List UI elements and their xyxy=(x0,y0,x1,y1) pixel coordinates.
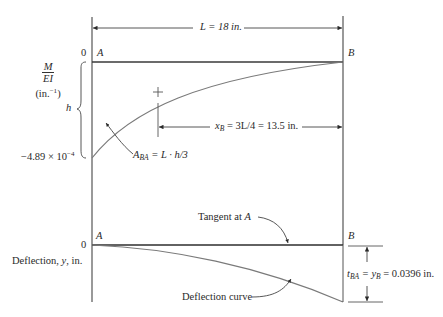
deflection-axis-label: Deflection, y, in. xyxy=(12,256,82,267)
length-label: L = 18 in. xyxy=(198,22,244,33)
moment-axis-label: M EI (in.−1) xyxy=(30,61,66,100)
height-brace xyxy=(77,62,86,158)
curve-label: Deflection curve xyxy=(182,292,252,303)
curve-leader xyxy=(252,279,291,297)
deflection-point-a: A xyxy=(96,231,102,242)
tangent-label: Tangent at A xyxy=(198,212,251,223)
centroid-label: xB = 3L/4 = 13.5 in. xyxy=(215,121,298,133)
moment-axis-denominator: EI xyxy=(30,73,66,85)
moment-point-b: B xyxy=(348,48,354,59)
tangent-leader xyxy=(258,217,288,243)
moment-curve xyxy=(92,62,343,158)
deflection-zero-tick: 0 xyxy=(81,240,86,251)
moment-point-a: A xyxy=(97,48,103,59)
tba-label: tBA = yB = 0.0396 in. xyxy=(345,269,436,281)
moment-axis-numerator: M xyxy=(42,61,55,73)
height-label: h xyxy=(66,103,71,114)
area-label: ABA = L · h/3 xyxy=(133,150,188,162)
deflection-point-b: B xyxy=(348,231,354,242)
moment-zero-tick: 0 xyxy=(81,48,86,59)
moment-min-tick: −4.89 × 10−4 xyxy=(21,151,74,163)
moment-axis-units: (in.−1) xyxy=(30,85,66,100)
